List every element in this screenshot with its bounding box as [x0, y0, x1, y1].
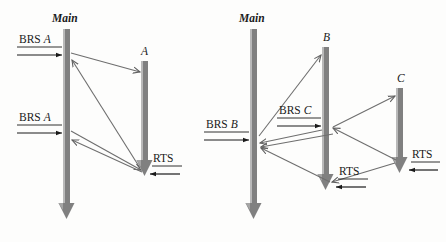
left-a-lifeline-bar — [137, 61, 153, 176]
left-msg-main-to-a-2 — [71, 131, 141, 170]
left-main-lifeline-label: Main — [52, 13, 78, 25]
right-rts-c-arrow — [409, 162, 440, 170]
right-brs-b-label-prefix: BRS — [206, 118, 231, 130]
left-brs-a-label-2: BRS A — [19, 112, 51, 124]
right-c-lifeline-label: C — [397, 73, 405, 85]
left-brs-a-arrow-2 — [17, 125, 62, 133]
right-brs-b-arrow — [204, 132, 249, 140]
right-b-lifeline-bar — [318, 47, 334, 190]
left-brs-a-label-2-prefix: BRS — [19, 111, 44, 123]
right-brs-c-label-name: C — [304, 104, 312, 116]
diagram-canvas: Main A BRS A BRS A RTS Main B C BRS B BR… — [0, 0, 446, 242]
right-brs-b-label-name: B — [231, 118, 238, 130]
left-msg-a-to-main-2 — [72, 140, 142, 172]
right-main-lifeline-bar — [246, 29, 262, 219]
right-brs-b-label: BRS B — [206, 119, 238, 131]
left-rts-arrow — [150, 166, 182, 174]
right-main-lifeline-label: Main — [239, 13, 265, 25]
right-brs-c-label-prefix: BRS — [279, 104, 304, 116]
right-c-lifeline-bar — [392, 88, 408, 173]
right-msg-main-to-b — [259, 55, 321, 136]
left-main-lifeline-bar — [59, 29, 75, 219]
right-rts-c-label: RTS — [412, 149, 432, 161]
left-brs-a-label-1-prefix: BRS — [19, 33, 44, 45]
left-brs-a-label-1-name: A — [44, 33, 51, 45]
right-rts-b-label: RTS — [339, 166, 359, 178]
right-msg-b-to-c — [333, 96, 395, 127]
right-msg-b-bottom-to-main — [261, 148, 330, 182]
left-brs-a-label-1: BRS A — [19, 34, 51, 46]
left-rts-label: RTS — [153, 153, 173, 165]
right-rts-b-arrow — [336, 179, 368, 187]
left-brs-a-label-2-name: A — [44, 111, 51, 123]
left-a-lifeline-label: A — [141, 46, 148, 58]
left-brs-a-arrow-1 — [17, 47, 62, 55]
left-msg-main-to-a-1 — [71, 53, 140, 72]
right-brs-c-arrow — [277, 118, 321, 126]
right-msg-c-to-b-return — [333, 128, 396, 160]
right-brs-c-label: BRS C — [279, 105, 311, 117]
right-b-lifeline-label: B — [323, 32, 330, 44]
left-msg-a-to-main-1 — [72, 60, 140, 168]
